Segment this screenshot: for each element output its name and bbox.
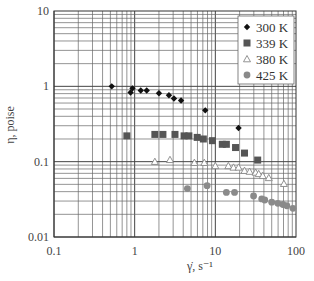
legend-item-label: 300 K [256,20,289,35]
data-point [194,134,201,141]
data-point [200,135,207,142]
x-tick-label: 1 [132,244,138,258]
data-point [250,193,257,200]
data-point [123,132,130,139]
legend-item-label: 339 K [256,36,289,51]
viscosity-chart: 0.11101000.010.1110 300 K339 K380 K425 K… [0,0,314,281]
x-tick-label: 0.1 [47,244,62,258]
data-point [144,87,150,93]
data-point [151,131,158,138]
data-point [171,131,178,138]
data-point [212,162,219,168]
data-point [232,144,239,151]
data-points [109,83,297,212]
data-point [223,141,230,148]
data-point [225,162,232,168]
data-point [241,150,248,157]
x-tick-label: 100 [287,244,305,258]
legend-item-label: 425 K [256,68,289,83]
data-point [231,189,238,196]
data-point [184,185,191,192]
data-point [254,157,261,164]
y-axis-label: η, poise [3,106,17,144]
legend-item-label: 380 K [256,52,289,67]
data-point [156,90,162,96]
data-point [166,92,172,98]
data-point [201,159,208,165]
x-axis-label: γ̇, s⁻¹ [186,259,213,273]
data-point [265,174,272,180]
data-point [204,182,211,189]
data-point [283,202,290,209]
y-tick-label: 10 [37,4,49,18]
data-point [261,197,268,204]
data-point [290,205,297,212]
legend: 300 K339 K380 K425 K [238,16,294,84]
data-point [159,131,166,138]
legend-marker-icon [244,40,251,47]
data-point [138,87,144,93]
data-point [223,189,230,196]
data-point [171,95,177,101]
data-point [191,159,198,165]
data-point [109,83,115,89]
y-tick-label: 1 [43,79,49,93]
data-point [166,156,173,162]
x-tick-label: 10 [209,244,221,258]
data-point [268,199,275,206]
y-tick-label: 0.1 [34,155,49,169]
legend-marker-icon [244,72,251,79]
data-point [185,132,192,139]
data-point [280,180,287,186]
y-tick-label: 0.01 [28,230,49,244]
data-point [209,137,216,144]
